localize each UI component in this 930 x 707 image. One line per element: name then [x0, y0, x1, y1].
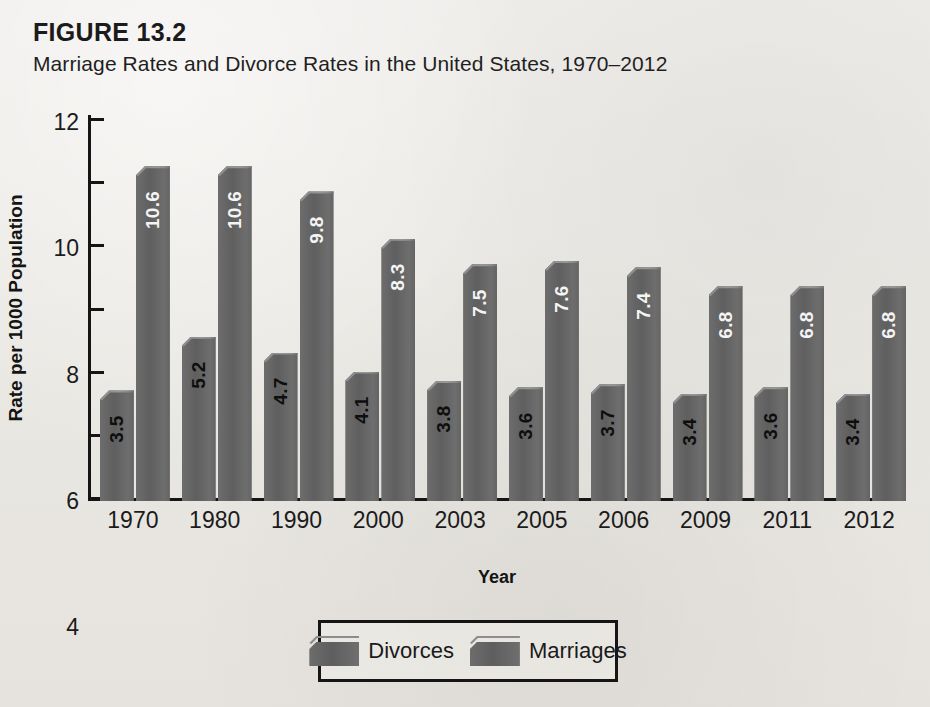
bar-side-shade [491, 264, 497, 501]
bar-side-shade [455, 381, 461, 501]
bar-value-label: 3.6 [515, 412, 537, 439]
x-axis-tick-label: 2006 [598, 507, 649, 534]
bar-side-shade [619, 384, 625, 501]
x-axis-tick-label: 2000 [353, 507, 404, 534]
bar-marriages-1980: 10.6 [218, 166, 252, 501]
bar-value-label: 3.5 [106, 415, 128, 442]
x-axis-tick-label: 2011 [763, 507, 812, 534]
bar-side-shade [246, 166, 252, 501]
x-axis-tick-label: 1970 [107, 507, 158, 534]
chart-plot-area: 024681012 3.510.65.210.64.79.84.18.33.87… [88, 115, 906, 501]
bar-side-shade [818, 286, 824, 501]
y-axis-tick-label: 6 [66, 488, 79, 515]
bar-divorces-2009: 3.4 [673, 394, 707, 501]
bar-divorces-2006: 3.7 [591, 384, 625, 501]
legend-item-marriages: Marriages [470, 636, 627, 666]
x-axis-tick-label: 2012 [844, 507, 895, 534]
bar-divorces-2012: 3.4 [836, 394, 870, 501]
bar-side-shade [373, 372, 379, 501]
bar-value-label: 6.8 [878, 311, 900, 338]
figure-container: FIGURE 13.2 Marriage Rates and Divorce R… [0, 0, 930, 707]
y-axis-tick: 12 [91, 118, 104, 121]
y-axis-tick-label: 8 [66, 361, 79, 388]
bar-value-label: 3.8 [433, 406, 455, 433]
y-axis-tick: 10 [91, 181, 104, 184]
bar-marriages-1970: 10.6 [136, 166, 170, 501]
legend-item-divorces: Divorces [309, 636, 454, 666]
bar-side-shade [409, 239, 415, 501]
bar-value-label: 7.4 [633, 292, 655, 319]
bar-marriages-2011: 6.8 [790, 286, 824, 501]
bar-marriages-2003: 7.5 [463, 264, 497, 501]
bar-divorces-1990: 4.7 [264, 353, 298, 501]
bar-value-label: 4.7 [270, 377, 292, 404]
bar-side-shade [128, 390, 134, 501]
x-axis-tick-label: 1980 [189, 507, 240, 534]
bar-side-shade [328, 191, 334, 501]
legend-label: Divorces [368, 638, 454, 664]
bar-value-label: 3.4 [842, 418, 864, 445]
y-axis-tick-label: 10 [53, 235, 79, 262]
bar-value-label: 10.6 [142, 191, 164, 229]
y-axis-tick: 8 [91, 244, 104, 247]
bar-value-label: 8.3 [387, 264, 409, 291]
x-axis-tick-label: 2009 [680, 507, 731, 534]
bar-value-label: 4.1 [351, 396, 373, 423]
legend-swatch-front [309, 642, 359, 666]
y-axis-title: Rate per 1000 Population [5, 194, 27, 421]
bar-side-shade [655, 267, 661, 501]
bar-value-label: 7.6 [551, 286, 573, 313]
bar-divorces-1970: 3.5 [100, 390, 134, 501]
bar-marriages-2012: 6.8 [872, 286, 906, 501]
x-axis-title: Year [478, 567, 516, 588]
bar-side-shade [292, 353, 298, 501]
x-axis-tick-label: 2003 [435, 507, 486, 534]
bar-value-label: 3.4 [679, 418, 701, 445]
bar-value-label: 6.8 [796, 311, 818, 338]
bar-side-shade [573, 261, 579, 501]
bar-divorces-2003: 3.8 [427, 381, 461, 501]
bar-side-shade [164, 166, 170, 501]
legend-swatch-icon [309, 636, 359, 666]
bar-side-shade [210, 337, 216, 501]
chart-legend: DivorcesMarriages [318, 620, 618, 682]
bar-divorces-1980: 5.2 [182, 337, 216, 501]
bar-marriages-2005: 7.6 [545, 261, 579, 501]
bar-marriages-2009: 6.8 [709, 286, 743, 501]
bar-value-label: 5.2 [188, 362, 210, 389]
bar-side-shade [900, 286, 906, 501]
bar-value-label: 6.8 [715, 311, 737, 338]
bar-marriages-1990: 9.8 [300, 191, 334, 501]
bar-side-shade [537, 387, 543, 501]
figure-title: Marriage Rates and Divorce Rates in the … [33, 52, 667, 76]
legend-swatch-icon [470, 636, 520, 666]
y-axis-tick: 6 [91, 308, 104, 311]
x-axis-tick-label: 1990 [271, 507, 322, 534]
bar-value-label: 10.6 [224, 191, 246, 229]
bar-side-shade [737, 286, 743, 501]
bar-divorces-2000: 4.1 [345, 372, 379, 501]
bar-side-shade [701, 394, 707, 501]
bar-divorces-2011: 3.6 [754, 387, 788, 501]
bar-value-label: 7.5 [469, 289, 491, 316]
y-axis-tick-label: 4 [66, 614, 79, 641]
bar-value-label: 3.6 [760, 412, 782, 439]
bar-marriages-2000: 8.3 [381, 239, 415, 501]
bar-value-label: 3.7 [597, 409, 619, 436]
figure-label: FIGURE 13.2 [33, 18, 186, 47]
bar-side-shade [864, 394, 870, 501]
bar-divorces-2005: 3.6 [509, 387, 543, 501]
x-axis-tick-label: 2005 [516, 507, 567, 534]
y-axis-tick: 4 [91, 371, 104, 374]
legend-swatch-front [470, 642, 520, 666]
bar-marriages-2006: 7.4 [627, 267, 661, 501]
bar-side-shade [782, 387, 788, 501]
legend-label: Marriages [529, 638, 627, 664]
bar-value-label: 9.8 [306, 216, 328, 243]
y-axis-tick-label: 12 [53, 109, 79, 136]
